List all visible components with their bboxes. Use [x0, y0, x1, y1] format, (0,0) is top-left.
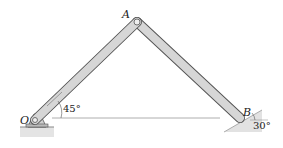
- label-b: B: [242, 106, 251, 119]
- ground-o: [20, 127, 54, 137]
- bar-ab: [137, 22, 240, 118]
- angle-label-30: 30°: [253, 120, 271, 131]
- label-a: A: [121, 8, 130, 21]
- label-o: O: [20, 114, 29, 127]
- angle-label-45: 45°: [63, 103, 81, 114]
- mechanism-diagram: O A B 45° 30°: [0, 0, 283, 148]
- pin-a: [134, 19, 140, 25]
- pin-o: [33, 118, 38, 123]
- bar-oa: [35, 22, 137, 120]
